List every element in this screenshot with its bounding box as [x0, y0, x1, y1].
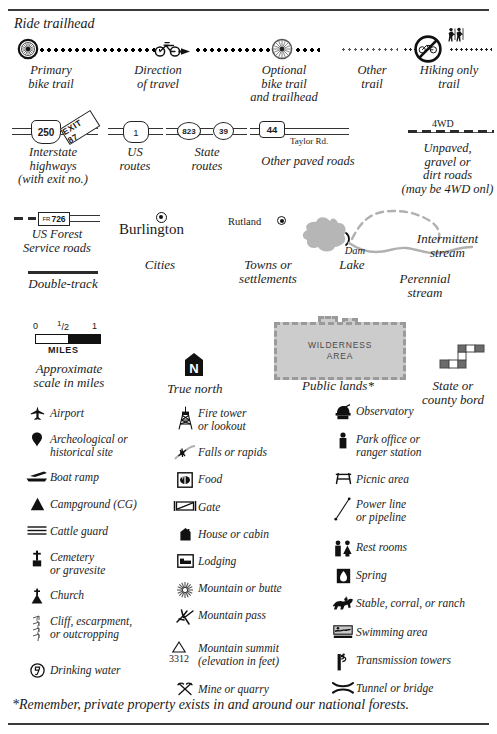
trail-label-primary: Primary bike trail	[6, 64, 96, 91]
true-north-icon: N	[183, 352, 205, 378]
cities-label: Cities	[122, 258, 198, 272]
fire-tower-icon	[172, 406, 198, 430]
symbol-label: Mine or quarry	[198, 682, 269, 696]
primary-bike-trail-line-2	[196, 48, 274, 52]
us-route-road-left	[108, 128, 124, 135]
state-route-number-b: 39	[219, 127, 228, 136]
symbol-label: Cemetery or gravesite	[50, 550, 105, 576]
4wd-badge: 4WD	[432, 118, 454, 129]
symbol-row-boat-ramp: Boat ramp	[24, 470, 174, 484]
symbol-label: Church	[50, 588, 84, 602]
no-bikes-icon	[412, 34, 444, 64]
symbol-label: Food	[198, 472, 222, 486]
svg-text:N: N	[189, 361, 198, 376]
lodging-icon	[172, 554, 198, 568]
symbol-row-stable: Stable, corral, or ranch	[330, 596, 497, 611]
transmission-towers-icon	[330, 653, 356, 671]
symbol-row-campground: Campground (CG)	[24, 497, 174, 511]
symbol-row-fire-tower: Fire tower or lookout	[172, 406, 337, 432]
map-legend-page: Ride trailhead	[0, 0, 497, 734]
scale-bar-segment-white	[36, 335, 68, 343]
rest-rooms-icon	[330, 540, 356, 557]
symbol-row-transmission-towers: Transmission towers	[330, 653, 497, 671]
mountain-summit-icon: 3312	[160, 641, 198, 664]
airport-icon	[24, 406, 50, 421]
symbol-row-rest-rooms: Rest rooms	[330, 540, 497, 557]
scale-label: Approximate scale in miles	[8, 362, 130, 389]
trail-label-optional: Optional bike trail and trailhead	[228, 64, 340, 105]
symbol-label: Stable, corral, or ranch	[356, 596, 465, 610]
symbol-label: Falls or rapids	[198, 445, 267, 459]
symbol-row-airport: Airport	[24, 406, 174, 421]
trail-label-hiking: Hiking only trail	[404, 64, 494, 91]
state-county-border-label: State or county bord	[398, 379, 497, 406]
cliff-icon	[24, 614, 50, 644]
cemetery-icon	[24, 550, 50, 567]
symbol-row-gate: Gate	[172, 500, 337, 514]
cattle-guard-icon	[24, 524, 50, 536]
mountain-pass-icon	[172, 608, 198, 626]
symbol-row-cemetery: Cemetery or gravesite	[24, 550, 174, 576]
symbol-row-lodging: Lodging	[172, 554, 337, 568]
drinking-water-icon	[24, 663, 50, 678]
house-cabin-icon	[172, 527, 198, 541]
scale-tick-0: 0	[33, 321, 38, 331]
symbol-label: Drinking water	[50, 663, 121, 677]
public-lands-label: Public lands*	[286, 379, 390, 393]
town-name: Rutland	[228, 216, 261, 227]
us-route-shield: 1	[123, 121, 149, 143]
interstate-label: Interstate highways (with exit no.)	[0, 146, 106, 187]
other-trail-line	[342, 48, 398, 51]
wilderness-area-line2: AREA	[308, 351, 372, 362]
perennial-stream-label: Perennial stream	[378, 272, 472, 299]
scale-bar-segment-black	[68, 335, 100, 343]
optional-trailhead-wheel-icon	[270, 37, 294, 61]
paved-road-number: 44	[267, 124, 278, 135]
symbol-row-church: Church	[24, 588, 174, 604]
symbol-label: Transmission towers	[356, 653, 451, 667]
hiking-trail-line-right	[450, 48, 492, 51]
symbol-label: House or cabin	[198, 527, 269, 541]
true-north-label: True north	[152, 382, 238, 396]
symbol-row-spring: Spring	[330, 568, 497, 584]
footnote-text: *Remember, private property exists in an…	[12, 697, 409, 713]
symbol-row-food: Food	[172, 472, 337, 488]
double-track-label: Double-track	[8, 277, 118, 291]
symbol-row-picnic-area: Picnic area	[330, 472, 497, 486]
symbol-label: Tunnel or bridge	[356, 681, 433, 695]
symbol-row-house-cabin: House or cabin	[172, 527, 337, 541]
campground-icon	[24, 497, 50, 511]
state-route-shield-b: 39	[213, 122, 234, 140]
bottom-divider	[8, 723, 489, 725]
symbol-label: Mountain summit (elevation in feet)	[198, 641, 279, 667]
mine-quarry-icon	[172, 682, 198, 696]
scale-tick-1: 1	[92, 321, 97, 331]
symbol-row-swimming-area: Swimming area	[330, 625, 497, 639]
us-routes-label: US routes	[110, 146, 160, 173]
symbol-label: Power line or pipeline	[356, 497, 406, 523]
symbol-row-archeological: Archeological or historical site	[24, 432, 174, 458]
forest-service-roads-label: US Forest Service roads	[2, 228, 112, 255]
symbol-label: Campground (CG)	[50, 497, 137, 511]
symbol-label: Gate	[198, 500, 220, 514]
symbol-row-drinking-water: Drinking water	[24, 663, 174, 678]
ride-trailhead-label: Ride trailhead	[14, 16, 95, 32]
scale-units: MILES	[48, 345, 79, 355]
interstate-shield: 250	[31, 120, 61, 144]
state-county-border-icon	[440, 344, 484, 374]
scale-half-denominator: 2	[64, 322, 69, 332]
park-office-icon	[330, 432, 356, 449]
symbol-row-tunnel-bridge: Tunnel or bridge	[330, 681, 497, 695]
symbol-row-park-office: Park office or ranger station	[330, 432, 497, 458]
symbol-label: Park office or ranger station	[356, 432, 422, 458]
other-paved-roads-label: Other paved roads	[244, 155, 372, 169]
symbol-label: Archeological or historical site	[50, 432, 128, 458]
state-route-road-mid	[199, 128, 213, 135]
forest-road-badge: FR 726	[38, 212, 70, 226]
road-name-label: Taylor Rd.	[290, 136, 328, 146]
forest-road-double-line	[69, 215, 100, 222]
falls-rapids-icon	[172, 445, 198, 461]
hikers-icon	[446, 27, 466, 43]
exit-sign-text: EXIT 87	[60, 110, 99, 145]
state-routes-label: State routes	[177, 146, 237, 173]
